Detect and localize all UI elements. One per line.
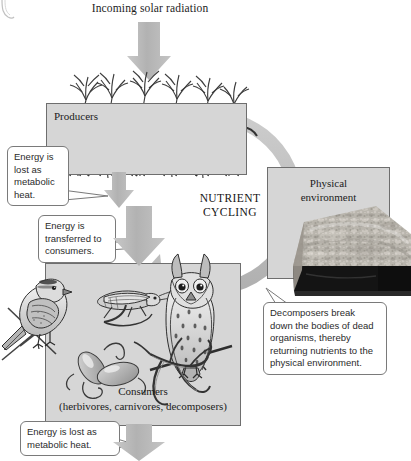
callout-decomposers-text: Decomposers break down the bodies of dea… <box>270 307 374 368</box>
callout-consumer-heat-text: Energy is lost as metabolic heat. <box>27 426 97 450</box>
callout-energy-transfer-text: Energy is transferred to consumers. <box>45 220 102 256</box>
figure-canvas: Producers Physical environment <box>0 0 411 461</box>
callout-energy-transfer: Energy is transferred to consumers. <box>38 215 116 263</box>
callout-consumer-heat: Energy is lost as metabolic heat. <box>20 421 120 456</box>
callout-producer-heat-text: Energy is lost as metabolic heat. <box>14 151 55 200</box>
callout-decomposers: Decomposers break down the bodies of dea… <box>263 302 387 375</box>
callout-producer-heat: Energy is lost as metabolic heat. <box>7 146 69 206</box>
